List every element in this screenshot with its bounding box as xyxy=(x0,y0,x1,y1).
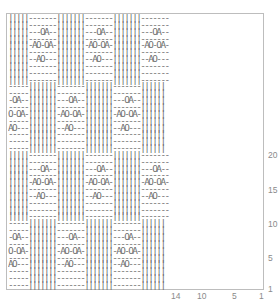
row-number-label: 15 xyxy=(268,185,277,195)
row-number-label: 1 xyxy=(268,284,273,294)
row-number-label: 5 xyxy=(268,253,273,263)
chart-row: -----|||||||-------|||||||-------|||||| xyxy=(8,282,168,289)
column-number-label: 5 xyxy=(232,291,237,301)
knitting-chart-grid: |||||-------|||||||-------|||||||-------… xyxy=(6,13,264,290)
column-number-label: 14 xyxy=(171,291,180,301)
row-number-label: 20 xyxy=(268,150,277,160)
chart-rows: |||||-------|||||||-------|||||||-------… xyxy=(8,15,165,289)
column-number-label: 10 xyxy=(197,291,206,301)
row-number-label: 10 xyxy=(268,219,277,229)
column-number-label: 1 xyxy=(259,291,264,301)
